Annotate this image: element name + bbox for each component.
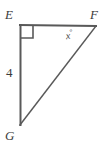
side-GF (20, 26, 96, 125)
side-EF (20, 25, 96, 26)
triangle-outline (20, 25, 96, 125)
vertex-label-G: G (5, 129, 14, 142)
angle-measure-label-F: x° (65, 29, 74, 41)
geometry-figure: E F G 4 x° (0, 0, 107, 149)
triangle-drawing (0, 0, 107, 149)
vertex-label-F: F (90, 8, 98, 21)
right-angle-marker-icon (21, 26, 33, 38)
side-length-label-EG: 4 (6, 66, 13, 79)
vertex-label-E: E (5, 8, 13, 21)
